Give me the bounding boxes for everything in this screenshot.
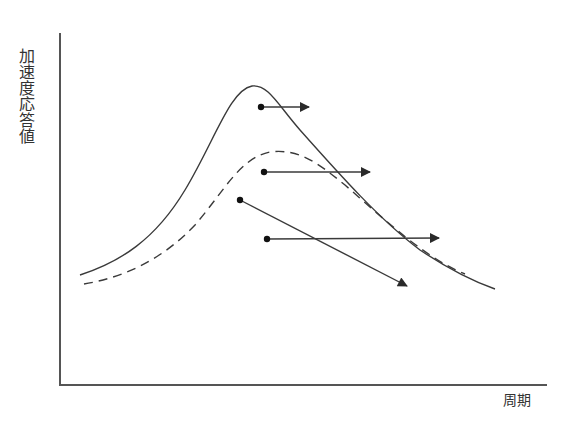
arrows-group [237,104,439,286]
arrow-start-dot [261,169,267,175]
arrow-line [267,238,439,239]
arrow-start-dot [237,197,243,203]
x-axis-label: 周期 [503,389,531,409]
arrow-4 [264,236,439,242]
response-spectrum-diagram [0,0,573,427]
curves-group [80,86,495,289]
arrow-start-dot [258,104,264,110]
arrow-2 [261,169,370,175]
y-axis-label: 加速度応答値 [15,48,35,144]
arrow-3 [237,197,407,286]
arrow-line [240,200,407,286]
solid-response-curve [80,86,495,289]
arrow-start-dot [264,236,270,242]
